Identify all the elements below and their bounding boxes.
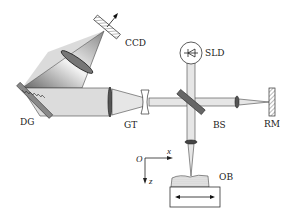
axis-x-label: x bbox=[166, 146, 171, 156]
label-gt: GT bbox=[124, 120, 137, 130]
sample-focus-beam bbox=[188, 144, 194, 176]
axis-origin-label: O bbox=[136, 154, 143, 164]
spectrum-beam bbox=[22, 31, 104, 88]
reference-focus-beam bbox=[239, 99, 269, 105]
coordinate-axes bbox=[143, 156, 173, 184]
label-bs: BS bbox=[213, 120, 226, 130]
label-ccd: CCD bbox=[125, 38, 146, 48]
translation-stage bbox=[170, 187, 220, 207]
object-sample bbox=[171, 175, 209, 187]
optical-setup-diagram: CCD DG GT SLD BS RM OB bbox=[0, 0, 292, 219]
label-dg: DG bbox=[20, 117, 34, 127]
label-rm: RM bbox=[264, 119, 280, 129]
axis-z-label: z bbox=[148, 176, 153, 186]
reference-lens bbox=[235, 96, 239, 108]
label-ob: OB bbox=[219, 172, 233, 182]
sample-lens bbox=[185, 140, 197, 144]
sld-source bbox=[180, 42, 202, 64]
gt-convex-lens bbox=[108, 87, 112, 117]
label-sld: SLD bbox=[205, 48, 224, 58]
converging-beam bbox=[112, 89, 145, 115]
reference-mirror bbox=[269, 88, 275, 116]
